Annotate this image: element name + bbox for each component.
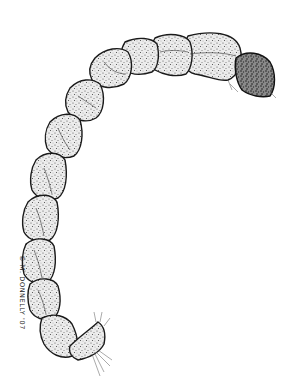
artist-signature: © M. DONNELLY '07 xyxy=(18,255,26,330)
head-capsule xyxy=(235,53,274,97)
larva-illustration xyxy=(0,0,289,392)
body-segment xyxy=(31,153,67,199)
body-segment xyxy=(23,195,59,241)
body-segment xyxy=(45,114,82,157)
body-segment xyxy=(28,279,60,320)
prolegs xyxy=(228,80,238,92)
anal-setae xyxy=(92,350,112,376)
body-segment xyxy=(22,239,55,284)
anal-segment xyxy=(69,322,104,360)
larva-body xyxy=(22,33,276,376)
